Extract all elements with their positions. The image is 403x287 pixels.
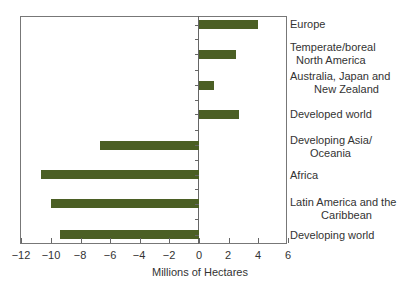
- bar: [41, 170, 199, 179]
- category-label-africa: Africa: [290, 169, 403, 182]
- y-tick: [195, 85, 199, 86]
- label-line: Temperate/boreal: [290, 41, 376, 53]
- bar: [51, 199, 199, 208]
- y-tick: [195, 100, 199, 101]
- bar: [199, 110, 239, 119]
- y-tick: [195, 130, 199, 131]
- label-line: New Zealand: [290, 83, 403, 96]
- category-label-europe: Europe: [290, 18, 403, 31]
- x-axis-title: Millions of Hectares: [110, 266, 290, 278]
- y-tick: [195, 175, 199, 176]
- y-tick: [195, 54, 199, 55]
- x-tick: [140, 238, 141, 243]
- y-tick: [195, 235, 199, 236]
- x-tick-label: −6: [95, 249, 125, 261]
- label-line: North America: [290, 54, 403, 67]
- label-line: Latin America and the: [290, 196, 396, 208]
- x-tick: [199, 238, 200, 243]
- label-line: Developed world: [290, 108, 372, 120]
- x-tick: [258, 238, 259, 243]
- x-tick: [169, 238, 170, 243]
- category-label-latin-america-caribbean: Latin America and the Caribbean: [290, 196, 403, 222]
- bar: [199, 81, 214, 90]
- x-tick: [81, 238, 82, 243]
- category-label-developing-asia-oceania: Developing Asia/ Oceania: [290, 134, 403, 160]
- x-tick: [288, 238, 289, 243]
- x-tick-label: 6: [273, 249, 303, 261]
- y-tick: [195, 114, 199, 115]
- x-tick-label: −2: [154, 249, 184, 261]
- category-label-developed-world: Developed world: [290, 108, 403, 121]
- x-tick-label: 4: [243, 249, 273, 261]
- y-tick: [195, 160, 199, 161]
- label-line: Developing world: [290, 229, 374, 241]
- y-tick: [195, 70, 199, 71]
- bar: [100, 141, 199, 150]
- plot-frame: [20, 16, 287, 244]
- category-label-australia-japan-nz: Australia, Japan and New Zealand: [290, 70, 403, 96]
- bar: [199, 20, 258, 29]
- label-line: Developing Asia/: [290, 134, 372, 146]
- y-tick: [195, 189, 199, 190]
- category-label-temperate-north-america: Temperate/boreal North America: [290, 41, 403, 67]
- y-tick: [195, 219, 199, 220]
- x-tick-label: 2: [213, 249, 243, 261]
- label-line: Africa: [290, 169, 318, 181]
- x-tick: [110, 238, 111, 243]
- x-tick: [229, 238, 230, 243]
- x-tick-label: −8: [65, 249, 95, 261]
- x-tick: [51, 238, 52, 243]
- x-tick-label: −12: [6, 249, 36, 261]
- label-line: Caribbean: [290, 209, 403, 222]
- x-tick-label: −10: [36, 249, 66, 261]
- y-tick: [195, 145, 199, 146]
- y-tick: [195, 39, 199, 40]
- y-tick: [195, 204, 199, 205]
- x-tick-label: 0: [184, 249, 214, 261]
- bar: [199, 50, 236, 59]
- x-tick: [21, 238, 22, 243]
- label-line: Europe: [290, 18, 325, 30]
- horizontal-bar-chart: −12 −10 −8 −6 −4 −2 0 2 4 6 Millions of …: [0, 0, 403, 287]
- label-line: Australia, Japan and: [290, 70, 390, 82]
- y-tick: [195, 25, 199, 26]
- category-label-developing-world: Developing world: [290, 229, 403, 242]
- x-tick-label: −4: [124, 249, 154, 261]
- label-line: Oceania: [290, 147, 403, 160]
